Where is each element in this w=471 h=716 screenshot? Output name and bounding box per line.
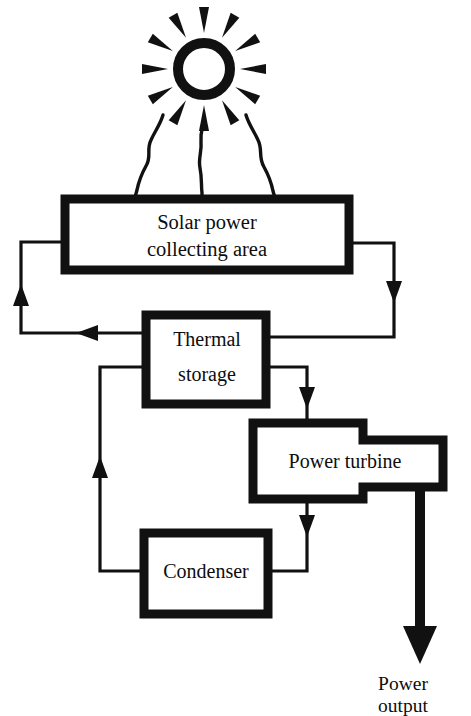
solar-collecting-area-label-line2: collecting area: [147, 238, 267, 261]
power-output-label: Power output: [378, 673, 428, 716]
arrowhead-up-left-loop: [13, 284, 29, 306]
diagram-svg: Solar power collecting area Thermal stor…: [0, 0, 471, 716]
power-output-arrowhead-icon: [403, 626, 437, 664]
node-thermal-storage[interactable]: Thermal storage: [146, 315, 266, 404]
node-solar-collecting-area[interactable]: Solar power collecting area: [65, 199, 349, 270]
arrowhead-down-into-condenser: [299, 515, 315, 537]
sun-rays-icon: [142, 7, 266, 131]
connector-condenser-to-storage: [100, 367, 146, 571]
connector-storage-to-turbine: [266, 367, 307, 423]
connector-turbine-to-condenser: [268, 499, 307, 571]
arrowhead-down-into-turbine: [299, 387, 315, 409]
power-output-label-line2: output: [378, 695, 428, 716]
power-output-label-line1: Power: [378, 673, 428, 694]
arrowhead-left-storage-to-solar: [76, 325, 98, 341]
sun-disc-icon: [178, 43, 230, 95]
power-output-arrow: [403, 487, 437, 664]
arrowhead-down-right-loop: [386, 281, 402, 303]
thermal-storage-label-line2: storage: [178, 363, 236, 386]
node-power-turbine[interactable]: Power turbine: [253, 423, 443, 499]
condenser-label: Condenser: [163, 560, 249, 582]
solar-collecting-area-label-line1: Solar power: [157, 211, 257, 234]
power-output-shaft: [415, 487, 425, 637]
sun-icon: [135, 7, 275, 199]
node-condenser[interactable]: Condenser: [144, 533, 268, 614]
arrowhead-up-condenser-to-storage: [92, 456, 108, 478]
thermal-storage-label-line1: Thermal: [173, 328, 241, 350]
diagram-canvas: Solar power collecting area Thermal stor…: [0, 0, 471, 716]
power-turbine-label: Power turbine: [289, 450, 402, 472]
